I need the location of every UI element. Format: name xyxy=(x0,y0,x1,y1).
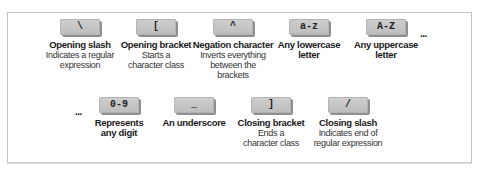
item-title: Opening slash xyxy=(45,40,115,50)
key-digit: 0-9 xyxy=(99,97,139,113)
uppercase-item: A-Z Any uppercase letter xyxy=(336,19,436,60)
key-lowercase: a-z xyxy=(289,19,329,35)
key-negation: ^ xyxy=(213,19,253,35)
item-desc: Indicates end of regular expression xyxy=(308,128,388,148)
item-title: Closing slash xyxy=(298,118,398,128)
key-underscore: _ xyxy=(174,97,214,113)
ellipsis-top: ... xyxy=(420,28,427,39)
item-desc: Ends a character class xyxy=(241,128,301,148)
key-uppercase: A-Z xyxy=(366,19,406,35)
item-title: Represents any digit xyxy=(89,118,149,138)
key-opening-slash: \ xyxy=(60,19,100,35)
closing-slash-item: / Closing slash Indicates end of regular… xyxy=(298,97,398,148)
key-closing-slash: / xyxy=(328,97,368,113)
key-closing-bracket: ] xyxy=(251,97,291,113)
item-desc: Indicates a regular expression xyxy=(45,50,115,70)
item-desc: Starts a character class xyxy=(126,50,186,70)
item-title: Any uppercase letter xyxy=(346,40,426,60)
key-opening-bracket: [ xyxy=(136,19,176,35)
